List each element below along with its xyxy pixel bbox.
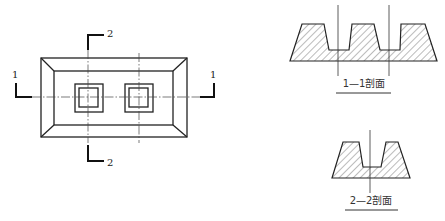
section-1-1: 1—1剖面 bbox=[290, 5, 437, 93]
section-label-1-left: 1 bbox=[12, 69, 18, 80]
section-2-2-body bbox=[332, 142, 410, 178]
section-label-2-bottom: 2 bbox=[107, 157, 113, 168]
corner-line-br bbox=[173, 125, 187, 137]
section-mark-2-top bbox=[88, 35, 104, 50]
drawing-canvas: 1 1 2 2 1—1剖面 2—2剖面 bbox=[0, 0, 445, 221]
section-mark-1-right bbox=[200, 83, 214, 97]
section-2-2: 2—2剖面 bbox=[332, 130, 410, 210]
inner-top-outline bbox=[54, 71, 173, 125]
plan-view: 1 1 2 2 bbox=[12, 28, 216, 168]
corner-line-tl bbox=[41, 58, 54, 71]
corner-line-tr bbox=[173, 58, 187, 71]
section-label-1-right: 1 bbox=[210, 69, 216, 80]
section-mark-1-left bbox=[16, 83, 32, 97]
right-socket-inner bbox=[129, 88, 148, 107]
left-socket-inner bbox=[79, 88, 98, 107]
section-label-2-top: 2 bbox=[107, 28, 113, 39]
section-1-1-body bbox=[290, 24, 437, 61]
corner-line-bl bbox=[41, 125, 54, 137]
section-2-2-caption: 2—2剖面 bbox=[350, 194, 393, 206]
section-1-1-caption: 1—1剖面 bbox=[343, 77, 386, 89]
section-mark-2-bottom bbox=[88, 145, 104, 161]
